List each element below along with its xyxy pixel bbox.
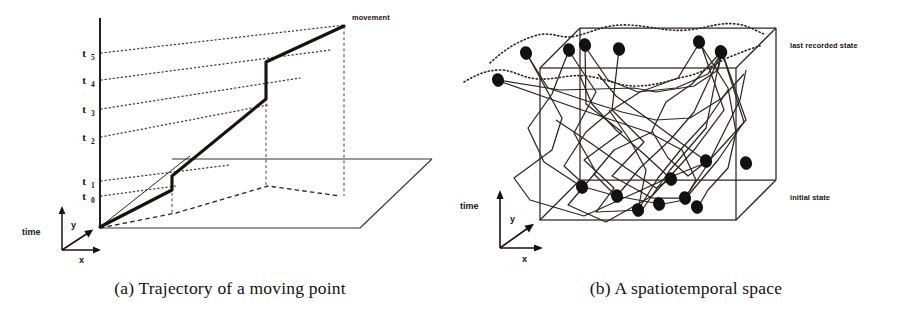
x-axis-label: x (522, 254, 527, 264)
state-dot (691, 34, 707, 51)
state-dot (518, 45, 534, 62)
panel-trajectory-of-moving-point: t 5 t 4 t 3 t 2 t 1 t 0 movement (0, 0, 460, 313)
spatiotemporal-box (540, 28, 776, 220)
y-axis-label: y (510, 214, 515, 224)
y-axis-arrow-line (62, 233, 88, 250)
y-axis-arrowhead (84, 230, 93, 238)
tick-sub-t2: 2 (91, 137, 95, 146)
state-dot (630, 202, 646, 219)
tick-sub-t5: 5 (91, 53, 95, 62)
tick-label-t2: t (82, 131, 86, 143)
time-axis-label: time (460, 201, 479, 211)
state-dot (738, 155, 754, 172)
time-axis-arrowhead (496, 190, 503, 199)
state-dot (490, 72, 506, 89)
panel-b-diagram: last recorded state initial state time y… (456, 0, 916, 270)
state-dot (611, 41, 627, 58)
ground-plane (100, 159, 432, 228)
time-slice-lines (101, 25, 345, 196)
panel-spatiotemporal-space: last recorded state initial state time y… (456, 0, 916, 313)
tick-sub-t0: 0 (91, 196, 95, 205)
tick-sub-t4: 4 (91, 80, 95, 89)
tick-label-t4: t (82, 74, 86, 86)
tick-sub-t3: 3 (91, 109, 95, 118)
panel-a-caption: (a) Trajectory of a moving point (0, 278, 460, 299)
last-recorded-state-label: last recorded state (790, 41, 858, 50)
tick-label-t0: t (82, 190, 86, 202)
movement-annotation: movement (352, 13, 390, 22)
initial-state-label: initial state (790, 193, 830, 202)
x-axis-arrowhead (93, 247, 101, 254)
y-axis-label: y (71, 220, 76, 230)
x-axis-arrowhead (534, 244, 543, 251)
y-axis-arrowhead (524, 224, 534, 233)
tick-label-t3: t (82, 103, 86, 115)
axis-triad-b: time y x (460, 190, 543, 264)
vertical-droplines (172, 26, 344, 214)
panel-a-diagram: t 5 t 4 t 3 t 2 t 1 t 0 movement (0, 0, 460, 270)
time-tick-labels: t 5 t 4 t 3 t 2 t 1 t 0 (82, 47, 95, 205)
secondary-trajectory (100, 156, 190, 227)
movement-trajectory (100, 26, 344, 227)
x-axis-label: x (79, 255, 84, 265)
panel-b-caption: (b) A spatiotemporal space (456, 278, 916, 299)
y-axis-arrow-line (500, 228, 528, 248)
figure-root: t 5 t 4 t 3 t 2 t 1 t 0 movement (0, 0, 916, 313)
time-axis-label: time (22, 227, 41, 237)
tick-sub-t1: 1 (91, 181, 95, 190)
state-dot (689, 199, 705, 216)
time-axis-arrowhead (59, 206, 66, 214)
tick-label-t1: t (82, 175, 86, 187)
axis-triad-a: time y x (22, 206, 101, 265)
tick-label-t5: t (82, 47, 86, 59)
